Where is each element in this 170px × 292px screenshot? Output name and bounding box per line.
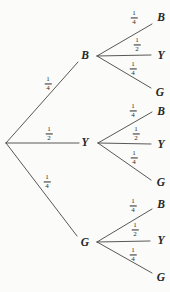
fraction-denominator: 4 [45,84,52,93]
branch-B-to-G [97,56,151,88]
fraction-denominator: 4 [44,182,51,191]
fraction-numerator: 1 [46,125,53,133]
fraction-numerator: 1 [130,60,137,68]
fraction-denominator: 2 [132,230,139,239]
outcome-B-G: G [156,86,164,98]
fraction-numerator: 1 [130,197,137,205]
stage2-Y-probability-G: 1 4 [131,149,138,166]
fraction-numerator: 1 [130,246,137,254]
branch-root-to-B [6,62,78,143]
stage1-node-B: B [81,49,89,61]
branch-Y-to-B [98,112,152,143]
stage1-probability-B: 1 4 [45,75,52,92]
stage2-B-probability-Y: 1 2 [134,36,141,53]
probability-tree-diagram: 1 4 1 2 1 4 B Y G 1 4 1 2 1 4 B Y G 1 4 … [0,0,170,292]
fraction-numerator: 1 [131,9,138,17]
outcome-G-Y: Y [157,234,164,246]
fraction-denominator: 4 [130,206,137,215]
stage2-B-probability-B: 1 4 [131,9,138,26]
branch-Y-to-Y [98,143,151,144]
branch-G-to-B [97,209,152,242]
fraction-denominator: 4 [131,18,138,27]
branch-B-to-B [97,24,152,56]
fraction-numerator: 1 [132,221,139,229]
stage1-node-G: G [81,236,89,248]
outcome-Y-Y: Y [157,138,164,150]
fraction-denominator: 4 [130,255,137,264]
branch-B-to-Y [97,55,151,56]
stage2-G-probability-Y: 1 2 [132,221,139,238]
fraction-numerator: 1 [134,36,141,44]
fraction-numerator: 1 [131,149,138,157]
stage1-probability-G: 1 4 [44,173,51,190]
outcome-G-G: G [157,271,165,283]
stage2-Y-probability-B: 1 4 [130,102,137,119]
stage2-B-probability-G: 1 4 [130,60,137,77]
stage2-Y-probability-Y: 1 2 [133,125,140,142]
outcome-Y-G: G [157,176,165,188]
outcome-Y-B: B [157,105,165,117]
fraction-denominator: 4 [130,111,137,120]
fraction-denominator: 2 [134,45,141,54]
fraction-denominator: 2 [46,134,53,143]
fraction-denominator: 2 [133,134,140,143]
outcome-B-B: B [157,11,165,23]
branch-Y-to-G [98,143,151,180]
fraction-numerator: 1 [133,125,140,133]
fraction-numerator: 1 [45,75,52,83]
branch-root-to-G [6,143,77,236]
stage1-node-Y: Y [81,136,88,148]
fraction-denominator: 4 [131,158,138,167]
fraction-denominator: 4 [130,69,137,78]
branch-G-to-Y [97,241,150,242]
fraction-numerator: 1 [44,173,51,181]
outcome-G-B: B [157,198,165,210]
fraction-numerator: 1 [130,102,137,110]
branch-G-to-G [97,242,152,273]
stage1-probability-Y: 1 2 [46,125,53,142]
stage2-G-probability-B: 1 4 [130,197,137,214]
outcome-B-Y: Y [157,49,164,61]
stage2-G-probability-G: 1 4 [130,246,137,263]
